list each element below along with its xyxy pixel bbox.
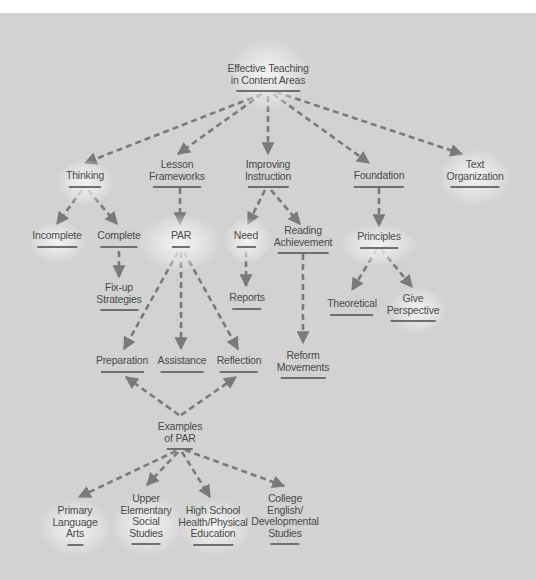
node-underline <box>37 246 77 248</box>
node-label-line: Assistance <box>158 355 207 367</box>
node-label-line: Developmental <box>251 516 318 528</box>
node-underline <box>193 544 233 546</box>
node-preparation: Preparation <box>96 355 148 373</box>
node-principles: Principles <box>357 231 401 249</box>
node-label-line: Upper <box>120 493 171 505</box>
node-label-line: Preparation <box>96 355 148 367</box>
edge-root-textorg <box>276 92 462 154</box>
node-label-line: Reflection <box>217 355 262 367</box>
node-par: PAR <box>171 230 191 248</box>
node-root: Effective Teaching in Content Areas <box>227 63 308 92</box>
node-underline <box>161 371 204 373</box>
node-high-school-health-physical-education: High School Health/Physical Education <box>178 505 247 546</box>
node-underline <box>331 314 374 316</box>
node-label-line: PAR <box>171 230 191 242</box>
node-label-line: Thinking <box>66 170 104 182</box>
node-label-line: Perspective <box>387 305 440 317</box>
edge-examples-preparation <box>126 377 179 415</box>
node-give-perspective: Give Perspective <box>387 293 440 322</box>
node-label-line: Reform <box>277 350 329 362</box>
node-label-line: Reading <box>274 225 333 237</box>
node-theoretical: Theoretical <box>327 298 377 316</box>
node-label-line: Complete <box>97 230 140 242</box>
node-label-line: in Content Areas <box>227 75 308 87</box>
node-primary-language-arts: Primary Language Arts <box>52 505 97 546</box>
node-underline <box>233 308 262 310</box>
node-label-line: Frameworks <box>149 171 205 183</box>
node-underline <box>270 543 299 545</box>
edge-examples-primary <box>79 451 176 497</box>
node-underline <box>237 246 256 248</box>
node-upper-elementary-social-studies: Upper Elementary Social Studies <box>120 493 171 545</box>
node-examples-of-par: Examples of PAR <box>158 421 203 450</box>
node-label-line: Improving <box>245 159 291 171</box>
node-underline <box>101 246 138 248</box>
node-underline <box>450 186 499 188</box>
node-underline <box>69 186 101 188</box>
node-text-organization: Text Organization <box>446 159 503 188</box>
node-underline <box>67 544 83 546</box>
node-label-line: Examples <box>158 421 203 433</box>
node-lesson-frameworks: Lesson Frameworks <box>149 159 205 188</box>
node-label-line: High School <box>178 505 247 517</box>
node-fixup-strategies: Fix-up Strategies <box>96 282 141 311</box>
node-underline <box>131 543 160 545</box>
node-improving-instruction: Improving Instruction <box>245 159 291 188</box>
node-label-line: Organization <box>446 171 503 183</box>
node-label-line: Effective Teaching <box>227 63 308 75</box>
node-label-line: of PAR <box>158 433 203 445</box>
node-underline <box>167 448 193 450</box>
node-label-line: Text <box>446 159 503 171</box>
node-label-line: Foundation <box>354 170 405 182</box>
node-label-line: Education <box>178 528 247 540</box>
node-underline <box>280 377 325 379</box>
node-underline <box>236 90 300 92</box>
node-label-line: Social <box>120 516 171 528</box>
node-label-line: Instruction <box>245 171 291 183</box>
node-underline <box>390 320 435 322</box>
node-underline <box>153 186 201 188</box>
node-underline <box>354 186 404 188</box>
node-reflection: Reflection <box>217 355 262 373</box>
node-label-line: Give <box>387 293 440 305</box>
node-assistance: Assistance <box>158 355 207 373</box>
node-label-line: Principles <box>357 231 401 243</box>
node-label-line: Strategies <box>96 294 141 306</box>
node-label-line: Studies <box>251 528 318 540</box>
node-incomplete: Incomplete <box>32 230 81 248</box>
node-foundation: Foundation <box>354 170 405 188</box>
node-reading-achievement: Reading Achievement <box>274 225 333 254</box>
edge-improving-reading <box>271 190 300 224</box>
node-college-english-developmental-studies: College English/ Developmental Studies <box>251 493 318 545</box>
node-complete: Complete <box>97 230 140 248</box>
node-label-line: Theoretical <box>327 298 377 310</box>
node-reports: Reports <box>229 292 264 310</box>
node-thinking: Thinking <box>66 170 104 188</box>
node-label-line: Fix-up <box>96 282 141 294</box>
edge-examples-reflection <box>181 377 236 415</box>
node-label-line: Need <box>234 230 258 242</box>
node-label-line: Reports <box>229 292 264 304</box>
node-label-line: College <box>251 493 318 505</box>
node-underline <box>360 247 398 249</box>
node-underline <box>278 252 329 254</box>
node-label-line: Incomplete <box>32 230 81 242</box>
node-underline <box>248 186 289 188</box>
node-underline <box>100 309 138 311</box>
node-label-line: Achievement <box>274 237 333 249</box>
node-underline <box>172 246 190 248</box>
node-label-line: Movements <box>277 362 329 374</box>
node-label-line: Primary <box>52 505 97 517</box>
node-need: Need <box>234 230 258 248</box>
node-label-line: Lesson <box>149 159 205 171</box>
edge-root-thinking <box>85 94 262 163</box>
node-label-line: Arts <box>52 528 97 540</box>
node-reform-movements: Reform Movements <box>277 350 329 379</box>
node-underline <box>101 371 144 373</box>
node-underline <box>220 371 258 373</box>
node-label-line: Studies <box>120 528 171 540</box>
